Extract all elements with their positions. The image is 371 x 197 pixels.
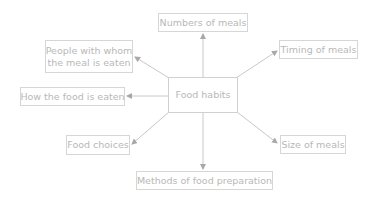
node-methods-of-food-preparation: Methods of food preparation <box>136 171 273 190</box>
node-timing-of-meals: Timing of meals <box>279 40 358 59</box>
node-numbers-of-meals: Numbers of meals <box>158 13 248 32</box>
node-label: Methods of food preparation <box>137 175 272 187</box>
node-food-choices: Food choices <box>66 135 130 155</box>
center-label: Food habits <box>176 89 231 101</box>
node-label: Timing of meals <box>281 44 357 56</box>
node-label: Food choices <box>67 139 129 151</box>
node-label-line1: People with whom <box>46 45 133 57</box>
node-size-of-meals: Size of meals <box>280 135 346 154</box>
node-label: How the food is eaten <box>20 91 124 103</box>
node-food-habits-center: Food habits <box>168 77 238 113</box>
node-label: Numbers of meals <box>160 17 247 29</box>
node-label-line2: the meal is eaten <box>47 57 130 69</box>
node-label: Size of meals <box>281 139 344 151</box>
node-people-with-whom: People with whom the meal is eaten <box>45 40 133 73</box>
edge-to-timing <box>236 51 277 78</box>
edge-to-choices <box>132 112 169 144</box>
edge-to-size <box>237 112 277 143</box>
node-how-food-is-eaten: How the food is eaten <box>20 87 125 106</box>
edge-to-people <box>135 57 169 78</box>
